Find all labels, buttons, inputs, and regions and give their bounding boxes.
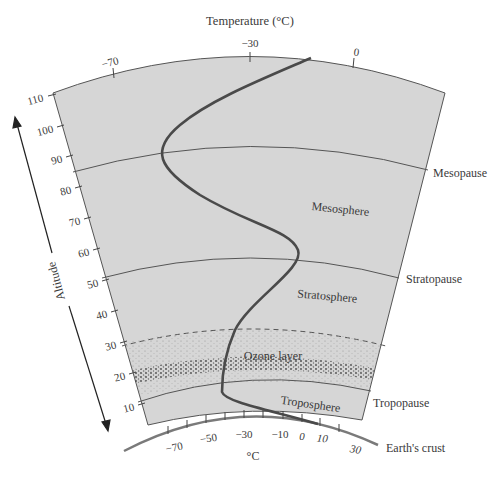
altitude-tick-label: 20	[113, 369, 127, 384]
stratopause-label: Stratopause	[406, 272, 462, 286]
bottom-unit-label: °C	[247, 449, 260, 463]
bottom-tick-label: −10	[271, 428, 289, 440]
bottom-tick-label: −50	[199, 431, 218, 445]
earths-crust-label: Earth's crust	[386, 441, 446, 455]
altitude-tick-label: 30	[104, 338, 118, 353]
top-tick-label: −70	[100, 54, 120, 70]
top-tick-label: 0	[353, 46, 361, 59]
tropopause-label: Tropopause	[373, 396, 429, 410]
altitude-label: Altitude	[44, 260, 68, 302]
bottom-tick-label: −70	[164, 439, 184, 454]
altitude-tick-label: 100	[35, 122, 55, 138]
altitude-tick-label: 10	[122, 400, 136, 415]
altitude-tick-label: 40	[95, 307, 109, 322]
bottom-tick-label: −30	[235, 428, 253, 440]
altitude-tick-label: 60	[77, 245, 91, 260]
bottom-tick-label: 0	[299, 430, 305, 442]
altitude-tick-label: 80	[59, 183, 73, 198]
chart-title: Temperature (°C)	[206, 14, 294, 28]
ozone-layer-label: Ozone layer	[244, 349, 302, 363]
mesopause-label: Mesopause	[433, 166, 487, 180]
altitude-tick-label: 90	[50, 152, 64, 167]
bottom-tick-label: 10	[316, 431, 329, 444]
bottom-tick-label: 30	[348, 442, 362, 456]
atmosphere-diagram: Temperature (°C) −70 −30 0 110 100	[0, 0, 499, 478]
altitude-tick-label: 70	[68, 214, 82, 229]
altitude-tick-label: 110	[26, 91, 45, 107]
altitude-tick-label: 50	[86, 276, 100, 291]
top-tick-label: −30	[241, 37, 259, 49]
